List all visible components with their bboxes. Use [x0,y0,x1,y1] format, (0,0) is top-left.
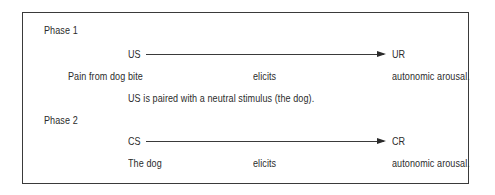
phase-1-verb: elicits [253,70,276,82]
phase-2-effect: autonomic arousal. [392,157,470,169]
phase-1-arrow-icon [146,54,384,55]
phase-2-arrow-icon [146,141,384,142]
phase-1-note: US is paired with a neutral stimulus (th… [128,92,314,104]
phase-1-label: Phase 1 [44,24,78,36]
phase-2-stimulus-cs: CS [128,135,141,147]
phase-1-stimulus-us: US [128,48,141,60]
phase-1-effect: autonomic arousal. [392,70,470,82]
phase-2-response-cr: CR [392,135,405,147]
phase-2-cause: The dog [128,157,162,169]
phase-2-verb: elicits [253,157,276,169]
phase-1-response-ur: UR [392,48,405,60]
phase-1-cause: Pain from dog bite [68,70,143,82]
phase-2-label: Phase 2 [44,114,78,126]
